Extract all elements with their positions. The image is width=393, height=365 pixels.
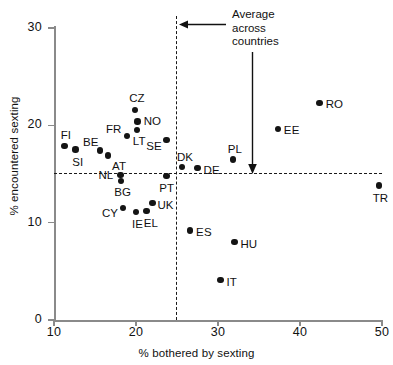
x-tick-label-20: 20 <box>119 325 153 339</box>
data-point-label-ee: EE <box>284 125 300 137</box>
y-tick-10 <box>48 222 54 224</box>
data-point-lt[interactable] <box>134 127 140 133</box>
data-point-label-ro: RO <box>326 99 343 111</box>
average-x-reference-line <box>176 16 177 320</box>
data-point-ie[interactable] <box>133 209 139 215</box>
data-point-label-pl: PL <box>228 144 242 156</box>
data-point-pl[interactable] <box>230 156 236 162</box>
data-point-de[interactable] <box>194 165 200 171</box>
x-tick-label-50: 50 <box>365 325 393 339</box>
data-point-fr[interactable] <box>124 133 130 139</box>
data-point-si[interactable] <box>72 146 78 152</box>
data-point-label-bg: BG <box>114 187 131 199</box>
data-point-label-pt: PT <box>159 183 174 195</box>
data-point-es[interactable] <box>187 227 193 233</box>
annotation-left-arrow-icon <box>179 20 227 29</box>
data-point-tr[interactable] <box>376 182 382 188</box>
data-point-label-se: SE <box>146 141 162 153</box>
y-tick-20 <box>48 125 54 127</box>
data-point-label-fr: FR <box>106 124 122 136</box>
data-point-fi[interactable] <box>61 143 67 149</box>
data-point-at[interactable] <box>105 152 111 158</box>
annotation-line: countries <box>232 35 342 49</box>
data-point-cy[interactable] <box>120 205 126 211</box>
x-tick-label-10: 10 <box>37 325 71 339</box>
data-point-label-ie: IE <box>132 219 143 231</box>
data-point-label-de: DE <box>204 165 220 177</box>
data-point-label-lt: LT <box>133 136 146 148</box>
y-tick-30 <box>48 27 54 29</box>
annotation-down-arrow-icon <box>246 52 259 174</box>
data-point-label-cz: CZ <box>129 93 145 105</box>
data-point-label-hu: HU <box>240 239 257 251</box>
data-point-label-at: AT <box>112 161 126 173</box>
data-point-label-fi: FI <box>61 130 71 142</box>
annotation-line: across <box>232 22 342 36</box>
data-point-pt[interactable] <box>163 173 169 179</box>
data-point-ro[interactable] <box>316 100 322 106</box>
average-annotation-text: Averageacrosscountries <box>232 8 342 49</box>
data-point-el[interactable] <box>143 208 149 214</box>
data-point-be[interactable] <box>97 147 103 153</box>
annotation-line: Average <box>232 8 342 22</box>
data-point-hu[interactable] <box>231 239 237 245</box>
data-point-it[interactable] <box>217 277 223 283</box>
data-point-label-cy: CY <box>102 208 118 220</box>
data-point-label-dk: DK <box>177 152 193 164</box>
y-tick-label-30: 30 <box>16 20 42 34</box>
data-point-dk[interactable] <box>179 164 185 170</box>
x-axis-title: % bothered by sexting <box>0 347 393 359</box>
data-point-label-si: SI <box>72 157 83 169</box>
data-point-bg[interactable] <box>118 178 124 184</box>
scatter-chart: 0102030 1020304050 FISIBEATFRCZNOLTSENLB… <box>0 0 393 365</box>
data-point-cz[interactable] <box>132 107 138 113</box>
data-point-no[interactable] <box>134 118 140 124</box>
x-tick-label-40: 40 <box>283 325 317 339</box>
data-point-label-el: EL <box>144 218 158 230</box>
data-point-label-es: ES <box>196 227 212 239</box>
data-point-label-uk: UK <box>157 200 173 212</box>
y-axis-title: % encountered sexting <box>8 56 20 256</box>
data-point-label-tr: TR <box>373 193 389 205</box>
data-point-se[interactable] <box>163 137 169 143</box>
data-point-label-nl: NL <box>98 170 113 182</box>
y-tick-label-0: 0 <box>16 312 42 326</box>
data-point-uk[interactable] <box>149 200 155 206</box>
x-tick-label-30: 30 <box>201 325 235 339</box>
data-point-label-be: BE <box>83 137 99 149</box>
data-point-label-it: IT <box>226 277 236 289</box>
data-point-label-no: NO <box>144 116 161 128</box>
data-point-ee[interactable] <box>275 126 281 132</box>
